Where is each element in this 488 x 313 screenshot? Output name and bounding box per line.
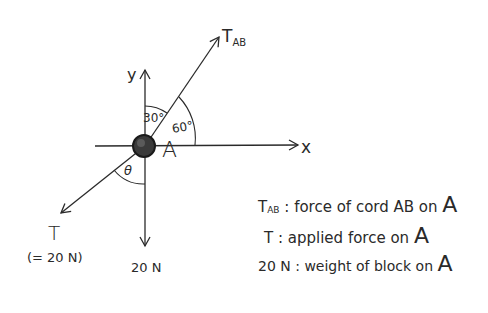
legend-text: force of cord AB on: [294, 198, 437, 216]
angle-60-label: 60°: [171, 118, 194, 135]
angle-30: 30°: [143, 106, 167, 125]
point-a-label: A: [162, 137, 177, 162]
angle-theta-label: θ: [124, 163, 132, 178]
legend-target: A: [437, 251, 452, 276]
legend-row-weight: 20 N : weight of block on A: [258, 251, 483, 279]
force-weight: 20 N: [131, 146, 161, 275]
angle-30-label: 30°: [143, 111, 164, 125]
legend-symbol: TAB: [258, 194, 280, 223]
force-t-note: (= 20 N): [27, 250, 83, 265]
force-tab-label: TAB: [221, 26, 246, 48]
x-axis: x: [95, 137, 311, 157]
legend-text: weight of block on: [304, 258, 433, 274]
legend-row-tab: TAB : force of cord AB on A: [258, 192, 483, 223]
legend-row-t: T : applied force on A: [258, 223, 483, 251]
angle-theta: θ: [114, 163, 145, 184]
legend-symbol: 20 N: [258, 253, 291, 279]
force-t-label: T: [48, 221, 60, 245]
legend-target: A: [442, 192, 457, 217]
y-axis-label: y: [127, 65, 136, 84]
legend-text: applied force on: [288, 229, 409, 247]
legend: TAB : force of cord AB on A T : applied …: [258, 192, 483, 279]
legend-symbol: T: [264, 225, 273, 251]
particle-a: A: [133, 135, 177, 162]
legend-target: A: [414, 223, 429, 248]
y-axis: y: [127, 65, 145, 146]
force-weight-label: 20 N: [131, 260, 161, 275]
x-axis-label: x: [301, 137, 311, 157]
force-tab: TAB: [145, 26, 246, 146]
